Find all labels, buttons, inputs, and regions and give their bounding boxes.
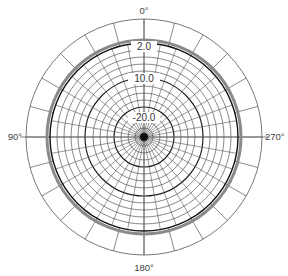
center-hub [140,133,148,141]
polar-chart: 0° 90° 180° 270° 2.0 10.0 -20.0 [0,0,288,276]
angle-label-90: 90° [8,131,23,142]
angle-label-0: 0° [139,5,148,16]
angle-label-270: 270° [265,131,285,142]
radial-label-2: 2.0 [137,41,151,52]
polar-grid [20,19,268,255]
radial-label-20: -20.0 [133,112,156,123]
radial-label-10: 10.0 [134,73,154,84]
angle-label-180: 180° [134,262,154,273]
